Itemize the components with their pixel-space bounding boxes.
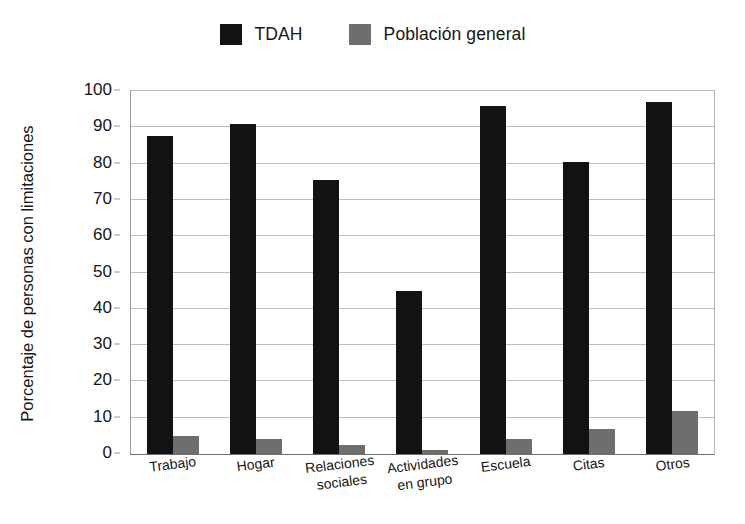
- y-tick-mark: [114, 380, 120, 381]
- x-tick-label: Citas: [547, 451, 632, 479]
- bar-series-container: [131, 91, 714, 454]
- bar-tdah: [563, 162, 589, 454]
- bar-group: [547, 91, 630, 454]
- bar-poblacion-general: [672, 411, 698, 454]
- legend-item-poblacion-general: Población general: [349, 24, 526, 45]
- y-axis-ticks: 1009080706050403020100: [62, 90, 120, 453]
- bar-group: [131, 91, 214, 454]
- y-tick-mark: [114, 307, 120, 308]
- y-tick-mark: [114, 235, 120, 236]
- bar-tdah: [396, 291, 422, 454]
- legend-label-poblacion-general: Población general: [384, 24, 526, 45]
- legend-item-tdah: TDAH: [220, 24, 303, 45]
- bar-poblacion-general: [173, 436, 199, 454]
- y-tick-label: 0: [103, 443, 112, 463]
- x-tick-label: Escuela: [463, 451, 548, 479]
- bar-group: [298, 91, 381, 454]
- y-tick-mark: [114, 453, 120, 454]
- x-tick-label-line: Citas: [547, 451, 632, 479]
- x-tick-label-line: Otros: [630, 451, 715, 479]
- y-axis-title: Porcentaje de personas con limitaciones: [14, 88, 40, 458]
- y-axis-title-text: Porcentaje de personas con limitaciones: [18, 125, 37, 421]
- y-tick-mark: [114, 344, 120, 345]
- y-tick-label: 20: [93, 370, 112, 390]
- y-tick-label: 90: [93, 116, 112, 136]
- legend-swatch-tdah: [220, 24, 242, 45]
- bar-poblacion-general: [506, 439, 532, 454]
- legend-label-tdah: TDAH: [255, 24, 303, 45]
- y-tick-label: 100: [84, 80, 112, 100]
- x-tick-label: Relacionessociales: [297, 451, 384, 497]
- legend-swatch-poblacion-general: [349, 24, 371, 45]
- bar-tdah: [646, 102, 672, 454]
- bar-tdah: [313, 180, 339, 454]
- y-tick-label: 70: [93, 189, 112, 209]
- chart-legend: TDAH Población general: [0, 24, 745, 45]
- x-tick-label-line: Trabajo: [130, 451, 215, 479]
- plot-area: [130, 90, 715, 455]
- bar-group: [464, 91, 547, 454]
- x-tick-label: Actividadesen grupo: [380, 451, 467, 497]
- bar-group: [631, 91, 714, 454]
- y-tick-label: 40: [93, 298, 112, 318]
- bar-tdah: [230, 124, 256, 454]
- y-tick-label: 60: [93, 225, 112, 245]
- y-tick-mark: [114, 198, 120, 199]
- x-tick-label: Otros: [630, 451, 715, 479]
- bar-tdah: [147, 136, 173, 454]
- y-tick-label: 50: [93, 262, 112, 282]
- x-axis-ticks: TrabajoHogarRelacionessocialesActividade…: [130, 456, 713, 522]
- y-tick-label: 10: [93, 407, 112, 427]
- y-tick-mark: [114, 416, 120, 417]
- bar-chart: TDAH Población general Porcentaje de per…: [0, 0, 745, 524]
- x-tick-label: Hogar: [214, 451, 299, 479]
- y-tick-mark: [114, 90, 120, 91]
- bar-tdah: [480, 106, 506, 454]
- y-tick-mark: [114, 126, 120, 127]
- bar-poblacion-general: [589, 429, 615, 454]
- y-tick-mark: [114, 271, 120, 272]
- y-tick-label: 80: [93, 153, 112, 173]
- bar-group: [381, 91, 464, 454]
- x-tick-label-line: Hogar: [214, 451, 299, 479]
- y-tick-mark: [114, 162, 120, 163]
- x-tick-label: Trabajo: [130, 451, 215, 479]
- bar-group: [214, 91, 297, 454]
- y-tick-label: 30: [93, 334, 112, 354]
- bar-poblacion-general: [256, 439, 282, 454]
- x-tick-label-line: Escuela: [463, 451, 548, 479]
